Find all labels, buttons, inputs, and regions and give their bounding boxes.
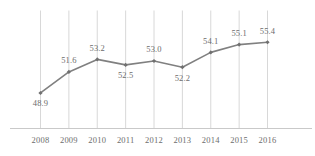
data-point-marker — [265, 40, 269, 44]
line-chart: 48.951.653.252.553.052.254.155.155.4 200… — [0, 0, 315, 156]
x-tick-2014: 2014 — [202, 136, 220, 145]
x-tick-2011: 2011 — [117, 136, 135, 145]
x-tick-2009: 2009 — [60, 136, 78, 145]
chart-plot-area — [0, 0, 315, 156]
x-tick-2013: 2013 — [173, 136, 191, 145]
data-point-marker — [152, 59, 156, 63]
x-tick-2012: 2012 — [145, 136, 163, 145]
data-point-marker — [124, 63, 128, 67]
x-tick-2016: 2016 — [259, 136, 277, 145]
x-tick-2015: 2015 — [230, 136, 248, 145]
x-tick-2008: 2008 — [32, 136, 50, 145]
data-point-marker — [237, 42, 241, 46]
x-tick-2010: 2010 — [88, 136, 106, 145]
